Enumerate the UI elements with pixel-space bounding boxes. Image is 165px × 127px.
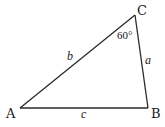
vertex-b-label: B (151, 106, 161, 121)
side-c-label: c (81, 107, 87, 121)
side-b-label: b (67, 49, 73, 63)
side-a-label: a (145, 53, 151, 67)
angle-c-label: 60° (117, 29, 132, 41)
triangle-diagram: A B C 60° b a c (0, 0, 165, 127)
vertex-a-label: A (5, 106, 16, 121)
vertex-c-label: C (137, 3, 147, 18)
